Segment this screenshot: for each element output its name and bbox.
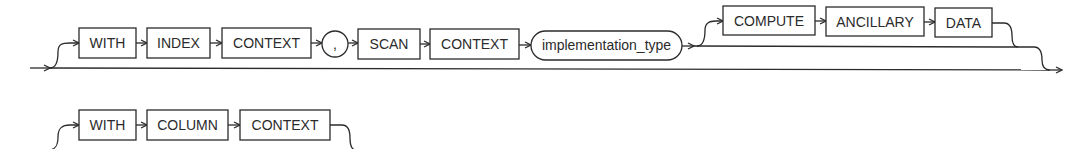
svg-text:COMPUTE: COMPUTE [734, 13, 804, 29]
svg-text:CONTEXT: CONTEXT [233, 35, 300, 51]
keyword-scan: SCAN [358, 29, 420, 59]
svg-text:SCAN: SCAN [370, 36, 409, 52]
svg-text:,: , [333, 36, 337, 52]
svg-text:COLUMN: COLUMN [157, 117, 218, 133]
row1-main-line [30, 68, 1062, 70]
keyword-ancillary: ANCILLARY [826, 7, 924, 36]
row2-merge [330, 125, 356, 149]
row1-merge-2 [992, 23, 1018, 47]
row1-branch-up-2 [697, 21, 723, 46]
syntax-diagram: WITH INDEX CONTEXT , SCAN CONTEXT implem… [0, 0, 1085, 149]
svg-text:WITH: WITH [90, 117, 126, 133]
keyword-data: DATA [935, 8, 992, 37]
svg-text:implementation_type: implementation_type [542, 37, 671, 53]
svg-text:DATA: DATA [946, 15, 982, 31]
row2-branch-up [48, 125, 79, 149]
keyword-context: CONTEXT [222, 28, 311, 58]
svg-text:CONTEXT: CONTEXT [252, 117, 319, 133]
svg-text:INDEX: INDEX [157, 35, 200, 51]
keyword-index: INDEX [147, 28, 210, 58]
row1-branch-up [50, 43, 79, 68]
keyword-with: WITH [79, 28, 136, 58]
keyword-context-row2: CONTEXT [240, 110, 330, 140]
row1-merge-main [1000, 47, 1050, 70]
separator-comma: , [322, 31, 348, 57]
row1-inner-bypass [694, 46, 1000, 47]
svg-text:CONTEXT: CONTEXT [441, 36, 508, 52]
keyword-context-2: CONTEXT [430, 29, 519, 59]
keyword-with-row2: WITH [79, 110, 136, 140]
nonterminal-implementation-type: implementation_type [531, 31, 682, 60]
keyword-column: COLUMN [147, 110, 228, 140]
svg-text:WITH: WITH [90, 35, 126, 51]
svg-text:ANCILLARY: ANCILLARY [836, 14, 914, 30]
keyword-compute: COMPUTE [723, 6, 815, 35]
